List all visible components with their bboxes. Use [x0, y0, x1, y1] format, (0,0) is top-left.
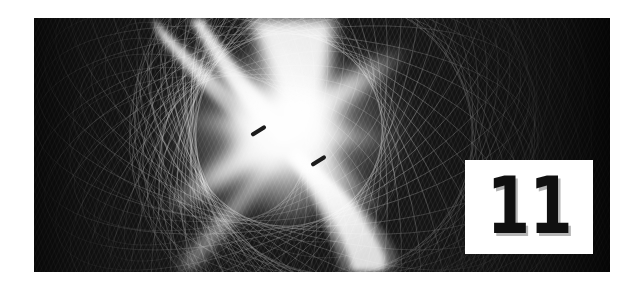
chapter-number: 11: [486, 175, 571, 239]
chapter-opener-page: 11: [0, 0, 644, 291]
chapter-number-box: 11: [465, 160, 593, 254]
